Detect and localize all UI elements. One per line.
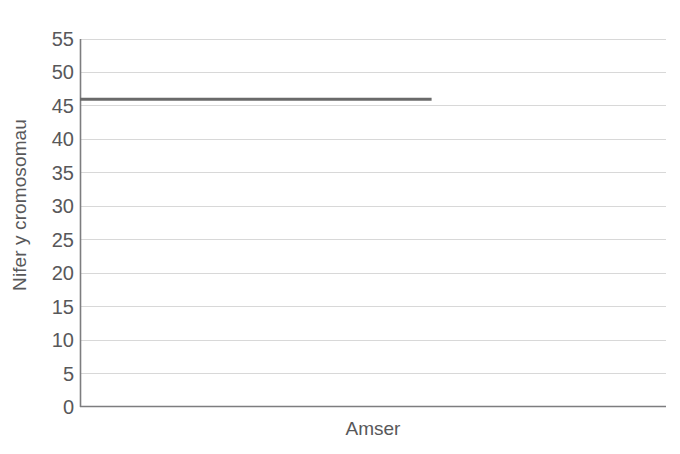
- y-axis-tick-label: 45: [52, 96, 74, 116]
- y-axis-tick-label: 35: [52, 163, 74, 183]
- y-axis-tick-label: 30: [52, 196, 74, 216]
- plot-svg: [80, 39, 666, 407]
- y-axis-tick-label: 5: [63, 364, 74, 384]
- x-axis-title-label: Amser: [346, 418, 401, 439]
- plot-area: [80, 39, 666, 407]
- y-axis-tick-label: 50: [52, 62, 74, 82]
- axes-group: [80, 39, 666, 407]
- gridlines-group: [80, 39, 666, 374]
- y-axis-tick-label: 15: [52, 297, 74, 317]
- y-axis-tick-label: 25: [52, 230, 74, 250]
- y-axis-tick-labels: 0510152025303540455055: [34, 0, 74, 454]
- chart-container: Nifer y cromosomau 051015202530354045505…: [0, 0, 680, 454]
- x-axis-title: Amser: [80, 418, 666, 440]
- y-axis-tick-label: 0: [63, 397, 74, 417]
- y-axis-title-label: Nifer y cromosomau: [9, 119, 31, 291]
- y-axis-tick-label: 40: [52, 129, 74, 149]
- y-axis-tick-label: 55: [52, 29, 74, 49]
- y-axis-tick-label: 10: [52, 330, 74, 350]
- y-axis-tick-label: 20: [52, 263, 74, 283]
